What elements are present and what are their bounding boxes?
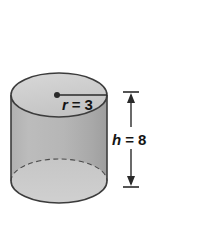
radius-label: r=3 <box>62 96 93 113</box>
center-dot-icon <box>54 92 60 98</box>
height-arrow-down-icon <box>127 176 135 186</box>
height-arrow-up-icon <box>127 93 135 103</box>
height-equals: = <box>125 131 134 148</box>
cylinder-figure: r=3 h=8 <box>0 0 200 247</box>
cylinder-diagram-canvas: r=3 h=8 <box>0 0 200 247</box>
height-variable: h <box>112 131 121 148</box>
height-label: h=8 <box>112 131 146 148</box>
radius-equals: = <box>72 96 81 113</box>
radius-value: 3 <box>85 96 93 113</box>
height-value: 8 <box>138 131 146 148</box>
